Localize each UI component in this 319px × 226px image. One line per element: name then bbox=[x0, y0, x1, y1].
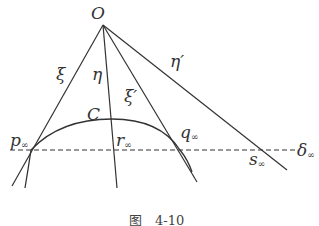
label-q-infinity: q∞ bbox=[180, 122, 198, 142]
projective-figure: O ξ η ξ′ η′ C p∞ r∞ q∞ s∞ δ∞ 图 4-10 bbox=[0, 0, 319, 226]
label-eta: η bbox=[92, 64, 103, 84]
label-delta-infinity: δ∞ bbox=[297, 140, 315, 160]
label-o: O bbox=[91, 3, 105, 23]
label-eta-prime: η′ bbox=[170, 51, 184, 71]
label-xi: ξ bbox=[56, 64, 67, 84]
label-c: C bbox=[87, 104, 100, 124]
label-p-infinity: p∞ bbox=[10, 130, 28, 150]
line-xi-prime bbox=[103, 25, 197, 182]
figure-caption: 图 4-10 bbox=[129, 213, 184, 226]
line-eta bbox=[103, 25, 117, 188]
conic-c bbox=[25, 119, 192, 188]
label-s-infinity: s∞ bbox=[249, 149, 265, 169]
label-xi-prime: ξ′ bbox=[124, 86, 137, 106]
label-r-infinity: r∞ bbox=[116, 130, 132, 150]
